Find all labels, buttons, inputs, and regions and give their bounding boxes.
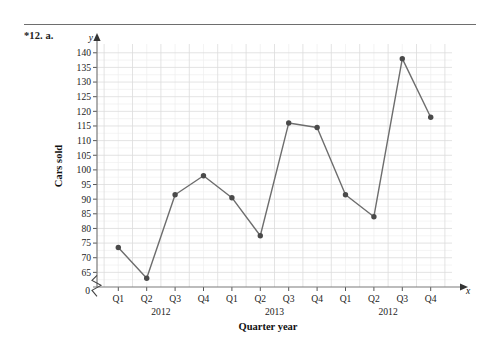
x-tick-label: Q1 <box>340 293 352 304</box>
x-tick-label: Q2 <box>254 293 266 304</box>
y-tick-label: 100 <box>77 164 92 175</box>
x-axis-group-year-labels: 201220132012 <box>151 306 398 317</box>
x-tick-label: Q2 <box>141 293 153 304</box>
y-tick-label: 65 <box>81 267 91 278</box>
x-tick-label: Q4 <box>311 293 323 304</box>
x-tick-label: Q1 <box>226 293 238 304</box>
data-point <box>229 195 234 200</box>
x-tick-label: Q1 <box>112 293 124 304</box>
data-point <box>428 114 433 119</box>
y-tick-label: 120 <box>77 106 92 117</box>
y-tick-label: 85 <box>81 208 91 219</box>
y-tick-label: 90 <box>81 194 91 205</box>
y-tick-label: 135 <box>77 62 92 73</box>
data-point <box>172 192 177 197</box>
y-axis-arrow-icon <box>93 33 100 41</box>
x-axis-letter: x <box>465 286 471 296</box>
y-tick-label: 95 <box>81 179 91 190</box>
data-point <box>201 173 206 178</box>
x-tick-label: Q3 <box>396 293 408 304</box>
x-tick-label: Q3 <box>283 293 295 304</box>
data-point <box>258 233 263 238</box>
line-chart: 6570758085909510010511011512012513013514… <box>0 0 487 344</box>
x-axis-tick-labels: Q1Q2Q3Q4Q1Q2Q3Q4Q1Q2Q3Q4 <box>112 293 436 304</box>
y-tick-label: 125 <box>77 91 92 102</box>
data-point <box>314 125 319 130</box>
data-point <box>144 276 149 281</box>
y-tick-label: 70 <box>81 252 91 263</box>
y-axis-ticks: 6570758085909510010511011512012513013514… <box>77 47 97 278</box>
y-tick-label: 75 <box>81 237 91 248</box>
y-tick-label: 115 <box>77 120 91 131</box>
data-point <box>371 214 376 219</box>
axis-lines <box>92 33 468 296</box>
y-tick-label: 105 <box>77 150 92 161</box>
y-axis-letter: y <box>88 33 94 43</box>
y-tick-label: 110 <box>77 135 91 146</box>
x-group-year-label: 2012 <box>379 306 398 317</box>
data-point <box>116 245 121 250</box>
data-point <box>286 120 291 125</box>
data-point <box>400 56 405 61</box>
x-group-year-label: 2013 <box>265 306 284 317</box>
x-axis-title: Quarter year <box>239 321 298 332</box>
x-tick-label: Q3 <box>169 293 181 304</box>
y-axis-origin-label: 0 <box>85 285 90 296</box>
x-tick-label: Q4 <box>425 293 437 304</box>
data-point <box>343 192 348 197</box>
y-tick-label: 130 <box>77 76 92 87</box>
figure-container: *12. a. 65707580859095100105110115120125… <box>0 0 487 344</box>
x-tick-label: Q2 <box>368 293 380 304</box>
y-axis-title: Cars sold <box>53 145 64 187</box>
chart-canvas: 6570758085909510010511011512012513013514… <box>0 0 487 344</box>
x-group-year-label: 2012 <box>151 306 170 317</box>
x-tick-label: Q4 <box>198 293 210 304</box>
y-tick-label: 80 <box>81 223 91 234</box>
y-tick-label: 140 <box>77 47 92 58</box>
